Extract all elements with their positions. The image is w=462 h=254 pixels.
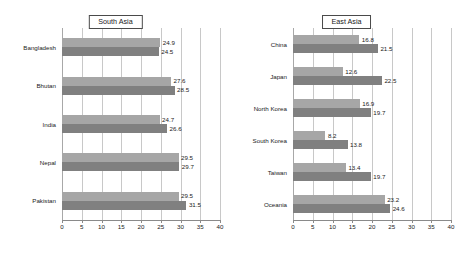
bar-value-south-4-0: 29.5 — [179, 193, 194, 199]
bar-group-east-0: 16.821.5 — [293, 28, 451, 60]
bar-line-east-4-1: 19.7 — [293, 172, 451, 181]
bar-east-3-1 — [293, 140, 348, 149]
bar-line-south-4-0: 29.5 — [62, 192, 220, 201]
bar-value-south-4-1: 31.5 — [186, 202, 201, 208]
bar-south-4-1 — [62, 201, 186, 210]
x-tick-label-east-0: 0 — [291, 224, 294, 230]
bar-group-south-2: 24.726.6 — [62, 105, 220, 143]
bar-east-3-0 — [293, 131, 325, 140]
bar-group-east-5: 23.224.6 — [293, 188, 451, 220]
category-label-east-5: Oceania — [231, 188, 291, 220]
bar-line-east-1-1: 22.5 — [293, 76, 451, 85]
bar-east-1-0 — [293, 67, 343, 76]
bar-group-east-3: 8.213.8 — [293, 124, 451, 156]
bar-south-0-0 — [62, 38, 160, 47]
bar-south-1-1 — [62, 86, 175, 95]
bar-line-east-3-1: 13.8 — [293, 140, 451, 149]
bar-value-east-4-1: 19.7 — [371, 173, 386, 179]
bar-east-0-0 — [293, 35, 359, 44]
plot-area-south-asia: 24.924.527.628.524.726.629.529.729.531.5 — [62, 28, 220, 220]
bar-east-2-0 — [293, 99, 360, 108]
bar-value-south-0-1: 24.5 — [159, 49, 174, 55]
bar-group-south-4: 29.531.5 — [62, 182, 220, 220]
panel-title-east-asia: East Asia — [322, 15, 372, 29]
bar-value-south-3-1: 29.7 — [179, 164, 194, 170]
bar-east-4-0 — [293, 163, 346, 172]
category-label-south-0: Bangladesh — [0, 28, 60, 66]
bar-east-5-1 — [293, 204, 390, 213]
bar-rows-south-asia: 24.924.527.628.524.726.629.529.729.531.5 — [62, 28, 220, 220]
bar-east-4-1 — [293, 172, 371, 181]
x-tick-label-east-30: 30 — [408, 224, 415, 230]
x-axis-east-asia: 0510152025303540 — [293, 220, 451, 234]
x-tick-label-south-35: 35 — [197, 224, 204, 230]
chart-figure: South Asia BangladeshBhutanIndiaNepalPak… — [0, 0, 462, 254]
bar-line-south-1-1: 28.5 — [62, 86, 220, 95]
category-label-south-3: Nepal — [0, 143, 60, 181]
bar-line-south-3-1: 29.7 — [62, 162, 220, 171]
bar-line-south-3-0: 29.5 — [62, 153, 220, 162]
panel-south-asia: South Asia BangladeshBhutanIndiaNepalPak… — [0, 0, 231, 254]
bar-line-south-0-0: 24.9 — [62, 38, 220, 47]
category-label-south-4: Pakistan — [0, 182, 60, 220]
bar-line-south-4-1: 31.5 — [62, 201, 220, 210]
bar-value-east-2-1: 19.7 — [371, 109, 386, 115]
bar-line-east-0-0: 16.8 — [293, 35, 451, 44]
bar-value-east-5-1: 24.6 — [390, 205, 405, 211]
bar-line-east-2-1: 19.7 — [293, 108, 451, 117]
bar-line-east-1-0: 12.6 — [293, 67, 451, 76]
category-label-east-3: South Korea — [231, 124, 291, 156]
bar-value-east-1-1: 22.5 — [382, 77, 397, 83]
x-tick-label-south-25: 25 — [157, 224, 164, 230]
bar-east-5-0 — [293, 195, 385, 204]
bar-line-south-0-1: 24.5 — [62, 47, 220, 56]
bar-east-2-1 — [293, 108, 371, 117]
category-label-east-1: Japan — [231, 60, 291, 92]
bar-group-east-2: 16.919.7 — [293, 92, 451, 124]
x-tick-label-east-35: 35 — [428, 224, 435, 230]
bar-value-east-3-0: 8.2 — [325, 132, 336, 138]
bar-value-east-1-0: 12.6 — [343, 68, 358, 74]
bar-value-south-1-0: 27.6 — [171, 78, 186, 84]
bar-south-3-1 — [62, 162, 179, 171]
bar-value-east-5-0: 23.2 — [385, 196, 400, 202]
category-label-south-2: India — [0, 105, 60, 143]
bar-value-south-3-0: 29.5 — [179, 155, 194, 161]
x-tick-label-east-20: 20 — [369, 224, 376, 230]
bar-value-east-0-1: 21.5 — [378, 45, 393, 51]
x-tick-label-south-15: 15 — [118, 224, 125, 230]
bar-line-east-2-0: 16.9 — [293, 99, 451, 108]
bar-value-south-1-1: 28.5 — [175, 87, 190, 93]
x-tick-label-south-40: 40 — [217, 224, 224, 230]
bar-value-east-4-0: 13.4 — [346, 164, 361, 170]
category-labels-east-asia: ChinaJapanNorth KoreaSouth KoreaTaiwanOc… — [231, 28, 291, 220]
bar-group-south-0: 24.924.5 — [62, 28, 220, 66]
bar-south-1-0 — [62, 77, 171, 86]
x-tick-label-east-15: 15 — [349, 224, 356, 230]
bar-line-south-1-0: 27.6 — [62, 77, 220, 86]
category-label-east-2: North Korea — [231, 92, 291, 124]
bar-south-2-1 — [62, 124, 167, 133]
category-labels-south-asia: BangladeshBhutanIndiaNepalPakistan — [0, 28, 60, 220]
x-tick-label-east-25: 25 — [388, 224, 395, 230]
bar-value-east-2-0: 16.9 — [360, 100, 375, 106]
bar-group-south-1: 27.628.5 — [62, 66, 220, 104]
bar-south-0-1 — [62, 47, 159, 56]
bar-south-2-0 — [62, 115, 160, 124]
bar-south-3-0 — [62, 153, 179, 162]
bar-group-east-1: 12.622.5 — [293, 60, 451, 92]
bar-south-4-0 — [62, 192, 179, 201]
bar-line-east-0-1: 21.5 — [293, 44, 451, 53]
bar-line-east-5-0: 23.2 — [293, 195, 451, 204]
bar-line-south-2-1: 26.6 — [62, 124, 220, 133]
bar-east-0-1 — [293, 44, 378, 53]
bar-rows-east-asia: 16.821.512.622.516.919.78.213.813.419.72… — [293, 28, 451, 220]
bar-line-east-4-0: 13.4 — [293, 163, 451, 172]
x-tick-label-south-30: 30 — [177, 224, 184, 230]
bar-value-east-0-0: 16.8 — [359, 36, 374, 42]
bar-value-south-2-1: 26.6 — [167, 125, 182, 131]
panel-east-asia: East Asia ChinaJapanNorth KoreaSouth Kor… — [231, 0, 462, 254]
bar-line-east-5-1: 24.6 — [293, 204, 451, 213]
category-label-east-4: Taiwan — [231, 156, 291, 188]
gridline-south-40 — [220, 28, 221, 220]
